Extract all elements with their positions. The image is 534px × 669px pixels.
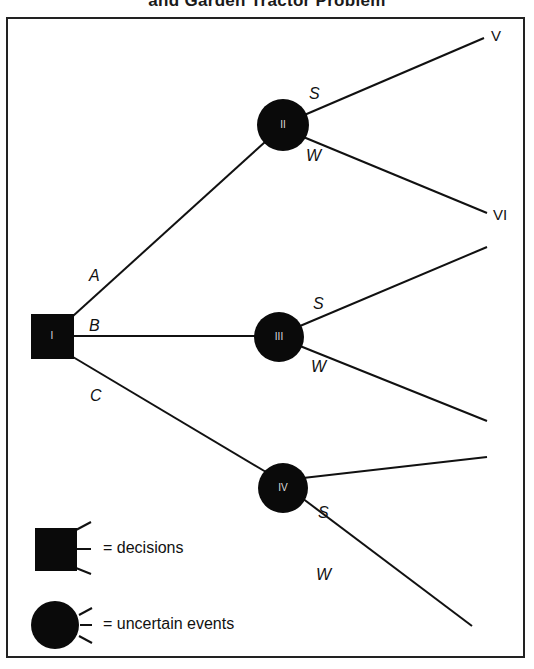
node-ii-s-label: S: [309, 85, 320, 103]
node-iv-w-label: W: [316, 566, 331, 584]
node-iii-w-line: [300, 346, 487, 421]
legend-chance-circle: [31, 601, 79, 649]
legend-uncertain-events: = uncertain events: [103, 615, 234, 633]
legend-decision-square: [35, 528, 77, 571]
node-iii-s-label: S: [313, 295, 324, 313]
branch-label-a: A: [89, 267, 100, 285]
branch-a-line: [73, 142, 265, 316]
branch-label-c: C: [90, 387, 102, 405]
legend-decisions: = decisions: [103, 539, 184, 557]
node-iii-w-label: W: [311, 358, 326, 376]
node-iv-s-label: S: [318, 504, 329, 522]
node-ii-w-label: W: [306, 147, 321, 165]
node-iv-label: IV: [263, 482, 303, 493]
node-iii-label: III: [259, 331, 299, 342]
outcome-v: V: [491, 27, 501, 44]
node-ii-label: II: [263, 119, 303, 130]
node-iii-s-line: [300, 247, 487, 326]
branch-label-b: B: [89, 317, 100, 335]
branch-c-line: [73, 357, 266, 472]
node-ii-s-line: [302, 38, 484, 116]
node-i-label: I: [32, 330, 72, 341]
node-ii-w-line: [301, 136, 487, 213]
outcome-vi: VI: [493, 206, 507, 223]
node-iv-s-line: [303, 457, 487, 478]
